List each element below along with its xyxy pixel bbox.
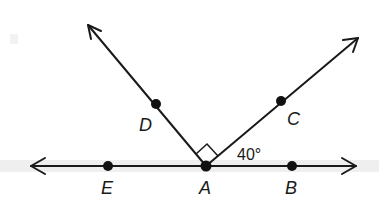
label-d: D	[139, 115, 152, 135]
ray-ad	[88, 25, 206, 166]
label-c: C	[287, 109, 301, 129]
angle-measure-label: 40°	[237, 146, 261, 163]
scan-artifact	[10, 34, 18, 44]
point-a	[201, 161, 212, 172]
label-e: E	[101, 178, 114, 198]
label-a: A	[198, 178, 211, 198]
point-c	[276, 96, 286, 106]
point-d	[151, 99, 161, 109]
right-angle-mark-icon	[196, 144, 218, 156]
label-b: B	[285, 178, 297, 198]
geometry-diagram: E A B D C 40°	[0, 0, 379, 209]
diagram-svg: E A B D C 40°	[0, 0, 379, 209]
point-e	[103, 161, 113, 171]
point-b	[287, 161, 297, 171]
